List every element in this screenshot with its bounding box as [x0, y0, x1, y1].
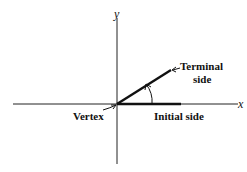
- initial-side-label: Initial side: [154, 111, 204, 122]
- angle-diagram: [0, 0, 247, 172]
- terminal-side: [117, 70, 171, 104]
- y-axis-label: y: [114, 8, 119, 20]
- angle-arc-arrow: [146, 84, 152, 104]
- vertex-label: Vertex: [73, 111, 104, 122]
- x-axis-label: x: [238, 98, 243, 110]
- terminal-side-label-line2: side: [193, 74, 211, 85]
- terminal-side-label-line1: Terminal: [180, 61, 223, 72]
